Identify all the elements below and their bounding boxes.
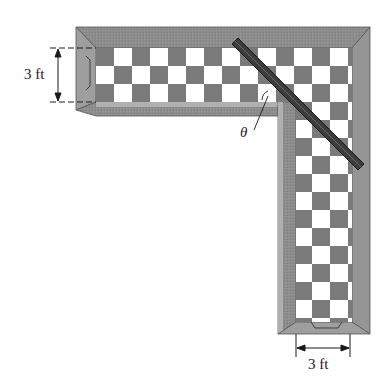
hallway-figure bbox=[0, 0, 391, 387]
hallway-diagram: 3 ft 3 ft θ bbox=[0, 0, 391, 387]
angle-label: θ bbox=[240, 124, 247, 141]
left-width-label: 3 ft bbox=[24, 66, 44, 83]
checkered-floor bbox=[96, 48, 352, 322]
bottom-dimension bbox=[296, 334, 350, 357]
bottom-width-label: 3 ft bbox=[308, 356, 328, 373]
